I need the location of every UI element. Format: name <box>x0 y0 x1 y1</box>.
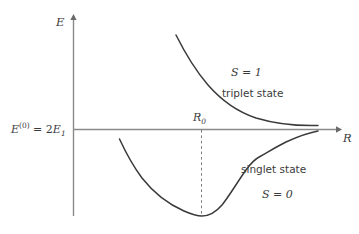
triplet-spin-annotation: S = 1 <box>231 67 262 78</box>
plot-canvas <box>0 0 359 234</box>
x-tick-label-r-nought: R0 <box>193 112 206 126</box>
energy-zero-superscript: (0) <box>19 121 30 130</box>
energy-zero-symbol: E <box>11 123 19 136</box>
x-axis-label: R <box>343 133 352 145</box>
energy-zero-label: E(0) = 2E1 <box>11 122 66 137</box>
r-nought-subscript: 0 <box>201 117 206 126</box>
triplet-state-annotation: triplet state <box>222 88 283 99</box>
singlet-state-annotation: singlet state <box>241 164 306 175</box>
energy-zero-subscript: 1 <box>61 129 66 138</box>
y-axis-label: E <box>56 17 64 29</box>
energy-zero-equals: = 2 <box>30 123 53 136</box>
energy-curve-figure: E R E(0) = 2E1 R0 S = 1 triplet state si… <box>0 0 359 234</box>
singlet-spin-annotation: S = 0 <box>262 189 293 200</box>
energy-zero-e1-symbol: E <box>53 123 61 136</box>
